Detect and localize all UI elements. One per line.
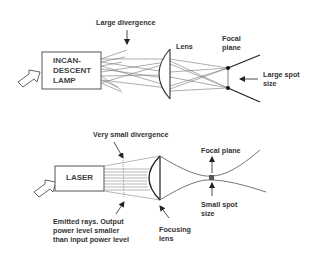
small-spot-label: Small spot size <box>201 200 237 218</box>
lens-label: Lens <box>176 42 193 51</box>
lens-top <box>159 49 170 99</box>
emitted-arrow <box>116 202 124 214</box>
lens-arrow <box>160 206 169 218</box>
large-spot-label: Large spot size <box>263 70 300 88</box>
focal-plane-top <box>228 55 260 102</box>
laser-label: LASER <box>66 173 93 183</box>
lamp-label: INCAN- DESCENT LAMP <box>53 56 91 86</box>
focal-point-upper <box>226 66 230 70</box>
focal-point-lower <box>226 86 230 90</box>
input-arrow-icon <box>18 70 40 87</box>
large-divergence-label: Large divergence <box>96 18 156 27</box>
focal-plane-label-top: Focal plane <box>222 34 241 52</box>
input-arrow-icon <box>34 180 56 197</box>
very-small-divergence-label: Very small divergence <box>93 130 169 139</box>
small-spot <box>209 175 214 180</box>
focusing-lens-label: Focusing lens <box>159 225 191 243</box>
optics-diagram <box>0 0 319 254</box>
focusing-lens <box>149 156 160 200</box>
focal-plane-label-bottom: Focal plane <box>201 146 241 155</box>
emitted-rays-label: Emitted rays. Output power level smaller… <box>53 217 129 244</box>
divergence-arrow-bottom <box>114 142 123 158</box>
